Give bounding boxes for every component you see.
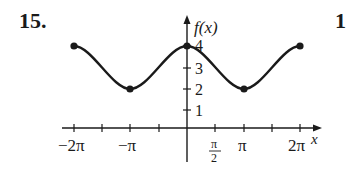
x-tick-label-2pi: 2π — [288, 136, 306, 155]
y-tick-label-2: 2 — [195, 81, 203, 98]
y-tick-label-3: 3 — [195, 60, 203, 77]
y-tick-label-1: 1 — [195, 102, 203, 119]
point-2pi — [296, 42, 303, 49]
x-axis-label: x — [310, 131, 318, 147]
point-negpi — [126, 85, 133, 92]
y-axis-arrow-icon — [184, 15, 191, 24]
y-tick-label-4: 4 — [195, 37, 203, 54]
x-tick-label-negpi: −π — [118, 136, 137, 155]
x-tick-label-pihalf-denominator: 2 — [211, 151, 217, 165]
function-graph: f(x) 4 3 2 1 −2π −π π 2 π 2π x — [0, 0, 346, 173]
point-neg2pi — [70, 42, 77, 49]
point-zero — [183, 42, 190, 49]
point-pi — [240, 85, 247, 92]
x-tick-label-neg2pi: −2π — [58, 136, 85, 155]
y-axis — [183, 15, 191, 162]
x-tick-label-pihalf-numerator: π — [211, 137, 217, 151]
x-tick-label-pi: π — [238, 136, 247, 155]
y-axis-label: f(x) — [194, 18, 218, 37]
x-axis — [62, 124, 322, 132]
